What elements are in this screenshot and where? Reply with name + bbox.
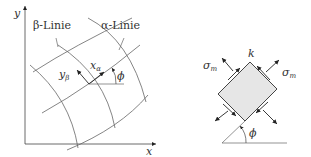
angle-arc-right [240, 126, 246, 143]
alpha-line-label: α-Linie [101, 19, 140, 32]
stress-left-label: σm [203, 59, 218, 73]
y-beta-label: yβ [58, 68, 69, 82]
y-beta-arrow [77, 70, 89, 84]
angle-label: ϕ [117, 70, 125, 83]
angle-label-right: ϕ [249, 127, 257, 140]
right-diagram: k σm σm ϕ [203, 47, 297, 143]
x-axis-label: x [146, 145, 153, 157]
normal-arrow-top-left [222, 58, 233, 71]
stress-right-label: σm [282, 66, 297, 80]
point-k-label: k [248, 47, 255, 60]
beta-line-label: β-Linie [33, 19, 71, 32]
left-diagram: y x β-Linie α-Linie xα yβ ϕ [13, 6, 156, 157]
slip-line-diagram: y x β-Linie α-Linie xα yβ ϕ [0, 0, 311, 157]
normal-arrow-top-right [266, 60, 279, 72]
y-axis-label: y [13, 7, 21, 20]
normal-arrow-bottom-left [215, 111, 228, 121]
incline-line [222, 121, 245, 143]
normal-arrow-bottom-right [263, 110, 277, 124]
alpha-leader [119, 38, 124, 50]
beta-leader [56, 38, 58, 47]
x-alpha-label: xα [90, 59, 101, 73]
angle-arc [112, 68, 116, 84]
